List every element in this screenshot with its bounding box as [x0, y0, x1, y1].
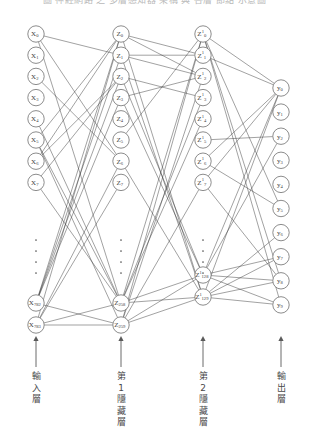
network-edge [124, 84, 200, 267]
network-canvas: X0X1X2X3X4X5X6X7X782X783Z0Z1Z2Z3Z4Z5Z6Z7… [0, 0, 309, 435]
layer-caption-char: 層 [190, 417, 216, 429]
network-node-output: y7 [273, 249, 289, 265]
network-node-hidden-2: Z1128 [195, 267, 211, 283]
network-edge [129, 300, 195, 323]
network-node-hidden-1: Z258 [113, 295, 129, 311]
network-node-hidden-2: Z17 [195, 174, 211, 190]
network-edge [210, 39, 275, 84]
network-node-hidden-2: Z10 [195, 26, 211, 42]
network-node-input: X2 [28, 68, 44, 84]
layer-caption-char: 層 [108, 417, 134, 429]
network-edge [209, 94, 275, 156]
network-edge [211, 282, 273, 295]
network-node-hidden-1: Z6 [113, 153, 129, 169]
layer-caption-char: 出 [268, 383, 294, 395]
vertical-ellipsis-dot [202, 250, 204, 252]
layer-caption-hidden-1: 第1隱藏層 [108, 371, 134, 429]
network-node-input: X7 [28, 174, 44, 190]
network-edge [124, 105, 199, 268]
network-node-output: y4 [273, 176, 289, 192]
network-node-input: X0 [28, 26, 44, 42]
vertical-ellipsis-dot [35, 250, 37, 252]
network-node-hidden-1: Z3 [113, 89, 129, 105]
layer-pointer-arrow-head [200, 336, 205, 341]
network-edge [129, 36, 195, 53]
network-node-hidden-1: Z2 [113, 68, 129, 84]
vertical-ellipsis-dot [120, 272, 122, 274]
vertical-ellipsis-dot [120, 261, 122, 263]
layer-caption-input: 輸入層 [23, 371, 49, 406]
network-node-input: X4 [28, 111, 44, 127]
network-edge [39, 105, 118, 295]
layer-pointer-arrow-head [33, 336, 38, 341]
network-edge [124, 126, 199, 295]
network-node-output: y6 [273, 224, 289, 240]
vertical-ellipsis-dot [120, 250, 122, 252]
network-edge [39, 126, 117, 295]
network-node-hidden-2: Z13 [195, 89, 211, 105]
network-node-hidden-2: Z16 [195, 153, 211, 169]
network-edge [208, 189, 276, 275]
network-node-output: y9 [273, 297, 289, 313]
network-node-hidden-2: Z15 [195, 132, 211, 148]
network-node-input: X783 [28, 317, 44, 333]
layer-caption-char: 輸 [268, 371, 294, 383]
layer-caption-char: 1 [108, 383, 134, 395]
network-node-input: X1 [28, 47, 44, 63]
network-node-output: y1 [273, 104, 289, 120]
vertical-ellipsis-dot [120, 239, 122, 241]
network-edge [40, 168, 117, 317]
network-edge [210, 260, 273, 293]
network-node-input: X782 [28, 295, 44, 311]
network-node-input: X5 [28, 132, 44, 148]
layer-caption-char: 第 [190, 371, 216, 383]
layer-caption-hidden-2: 第2隱藏層 [190, 371, 216, 429]
network-node-hidden-1: Z1 [113, 47, 129, 63]
network-edge [44, 36, 113, 53]
network-node-input: X6 [28, 153, 44, 169]
network-edge [40, 147, 117, 295]
network-edge [123, 42, 200, 289]
network-node-hidden-1: Z5 [113, 132, 129, 148]
vertical-ellipsis-dot [202, 272, 204, 274]
network-node-hidden-2: Z1129 [195, 289, 211, 305]
layer-caption-output: 輸出層 [268, 371, 294, 406]
network-edge [207, 143, 277, 268]
network-edge [211, 276, 273, 281]
layer-caption-char: 隱 [108, 394, 134, 406]
network-edge [128, 279, 196, 320]
network-edge [39, 147, 117, 317]
vertical-ellipsis-dot [35, 239, 37, 241]
layer-caption-char: 第 [108, 371, 134, 383]
network-node-hidden-2: Z14 [195, 111, 211, 127]
network-node-hidden-1: Z4 [113, 111, 129, 127]
network-edge [205, 42, 278, 273]
neural-network-diagram: 圖 神經網路 之 多層感知器 架構 與 各層 節點 示意圖 X0X1X2X3X4… [0, 0, 309, 435]
network-node-output: y0 [273, 80, 289, 96]
layer-arrows-group [33, 336, 283, 367]
network-node-hidden-1: Z7 [113, 174, 129, 190]
layer-caption-char: 藏 [108, 406, 134, 418]
layer-pointer-arrow-head [278, 336, 283, 341]
vertical-ellipsis-dot [35, 261, 37, 263]
layer-caption-char: 隱 [190, 394, 216, 406]
network-node-hidden-2: Z11 [195, 47, 211, 63]
vertical-ellipsis-dot [202, 239, 204, 241]
network-node-hidden-2: Z12 [195, 68, 211, 84]
network-node-input: X3 [28, 89, 44, 105]
network-node-hidden-1: Z0 [113, 26, 129, 42]
layer-caption-char: 入 [23, 383, 49, 395]
vertical-ellipsis-dot [202, 261, 204, 263]
network-edge [126, 40, 198, 133]
edges-group [38, 36, 278, 325]
layer-caption-char: 層 [268, 394, 294, 406]
network-edge [41, 83, 116, 176]
network-edge [211, 137, 273, 140]
network-edge [211, 298, 273, 304]
network-edge [129, 57, 195, 74]
network-edge [123, 42, 201, 317]
network-edge [129, 278, 195, 301]
network-node-output: y2 [273, 128, 289, 144]
network-node-output: y5 [273, 200, 289, 216]
layer-caption-char: 2 [190, 383, 216, 395]
